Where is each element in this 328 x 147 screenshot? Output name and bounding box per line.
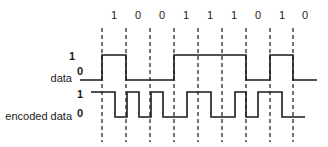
- bit-label: 0: [255, 9, 261, 21]
- bit-label: 1: [279, 9, 285, 21]
- bit-label: 0: [135, 9, 141, 21]
- data-low-label: 0: [77, 65, 83, 77]
- bit-labels: 1 0 0 1 1 1 0 1 0: [111, 9, 308, 21]
- bit-label: 1: [231, 9, 237, 21]
- data-high-label: 1: [69, 50, 75, 62]
- bit-label: 1: [207, 9, 213, 21]
- encoded-high-label: 1: [77, 88, 83, 100]
- bit-label: 0: [159, 9, 165, 21]
- encoded-row-label: encoded data: [5, 110, 73, 122]
- encoded-low-label: 0: [77, 107, 83, 119]
- manchester-encoding-diagram: 1 0 0 1 1 1 0 1 0 1 0 data 1 0 encoded d…: [0, 0, 328, 147]
- bit-label: 1: [111, 9, 117, 21]
- bit-label: 1: [183, 9, 189, 21]
- data-row-label: data: [51, 72, 73, 84]
- clock-boundaries: [102, 28, 293, 142]
- bit-label: 0: [302, 9, 308, 21]
